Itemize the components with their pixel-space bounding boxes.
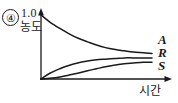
option-number-badge: ④ bbox=[2, 9, 19, 26]
x-axis-arrowhead bbox=[165, 76, 173, 82]
y-axis-title: 농도 bbox=[20, 21, 42, 34]
curve-a-line bbox=[41, 15, 152, 53]
axes-group bbox=[38, 8, 172, 82]
curves-group bbox=[41, 15, 152, 79]
x-axis-title: 시간 bbox=[139, 85, 161, 98]
y-axis-max-value-label: 1.0 bbox=[21, 7, 37, 20]
concentration-vs-time-figure: ④ 1.0 농도 시간 A R S bbox=[0, 0, 178, 103]
curve-label-s: S bbox=[158, 59, 165, 72]
curve-s-line bbox=[41, 62, 152, 79]
